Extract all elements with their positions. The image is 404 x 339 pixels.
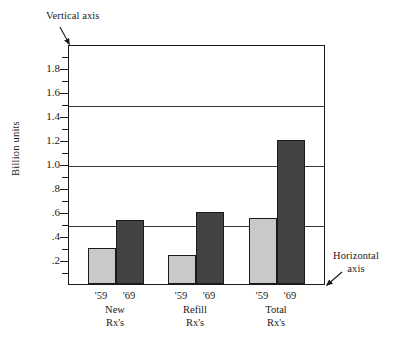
bar: [116, 220, 144, 284]
bar-chart-figure: Vertical axis Horizontal axis Billion un…: [0, 0, 404, 339]
y-tick-major: [60, 189, 68, 190]
y-tick-label: 1.0: [32, 159, 60, 170]
x-year-label: '59: [86, 290, 116, 301]
y-tick-major: [60, 141, 68, 142]
plot-area: [68, 45, 325, 285]
bar: [277, 140, 305, 284]
x-group-label: Refill Rx's: [160, 303, 230, 329]
y-axis-ticks: 1.81.61.41.21.0.8.6.4.2: [0, 0, 60, 339]
gridline: [69, 106, 324, 107]
y-tick-label: .8: [32, 183, 60, 194]
bar: [88, 248, 116, 284]
y-tick-major: [60, 165, 68, 166]
y-tick-major: [60, 93, 68, 94]
y-tick-label: 1.8: [32, 63, 60, 74]
y-tick-label: .4: [32, 231, 60, 242]
x-year-label: '69: [194, 290, 224, 301]
x-group-label: Total Rx's: [241, 303, 311, 329]
bar: [196, 212, 224, 284]
y-tick-label: 1.4: [32, 111, 60, 122]
y-tick-major: [60, 117, 68, 118]
x-year-label: '59: [247, 290, 277, 301]
y-tick-label: 1.6: [32, 87, 60, 98]
x-year-label: '69: [114, 290, 144, 301]
y-tick-major: [60, 213, 68, 214]
x-year-label: '59: [166, 290, 196, 301]
x-group-label: New Rx's: [80, 303, 150, 329]
y-tick-major: [60, 261, 68, 262]
bar: [168, 255, 196, 284]
y-tick-major: [60, 69, 68, 70]
y-tick-label: 1.2: [32, 135, 60, 146]
y-tick-major: [60, 237, 68, 238]
x-year-label: '69: [275, 290, 305, 301]
y-tick-label: .2: [32, 255, 60, 266]
bar: [249, 218, 277, 284]
y-tick-label: .6: [32, 207, 60, 218]
